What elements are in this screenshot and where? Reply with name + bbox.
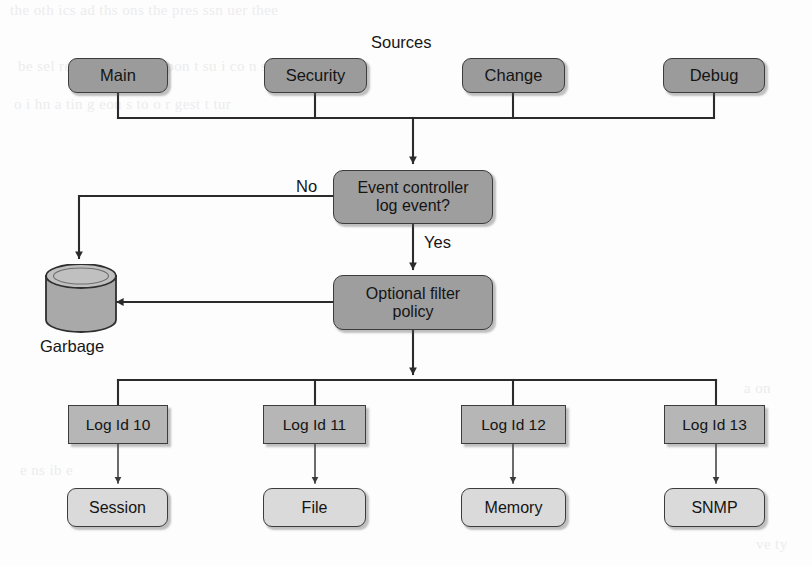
edge-label-no: No — [296, 177, 317, 196]
output-node-session[interactable]: Session — [67, 488, 168, 527]
source-node-security[interactable]: Security — [264, 58, 367, 93]
decision-label-line2: log event? — [376, 197, 450, 215]
cylinder-icon — [42, 264, 120, 338]
logid-label-11: Log Id 11 — [283, 416, 347, 433]
source-label-security: Security — [286, 66, 346, 84]
diagram-title: Sources — [371, 33, 432, 52]
logid-label-12: Log Id 12 — [481, 416, 546, 433]
logid-node-10[interactable]: Log Id 10 — [68, 405, 168, 444]
output-label-memory: Memory — [485, 499, 543, 517]
wire-no-branch — [79, 196, 333, 258]
source-label-main: Main — [100, 66, 136, 84]
datastore-node-garbage[interactable] — [42, 264, 120, 338]
logid-label-10: Log Id 10 — [86, 416, 151, 433]
filter-label-line2: policy — [393, 303, 434, 321]
source-label-change: Change — [485, 66, 543, 84]
source-node-change[interactable]: Change — [462, 58, 565, 93]
flowchart-canvas: the oth ics ad ths ons the pres ssn uer … — [0, 0, 812, 566]
source-label-debug: Debug — [690, 66, 739, 84]
decision-label-line1: Event controller — [357, 179, 468, 197]
logid-node-12[interactable]: Log Id 12 — [461, 405, 566, 444]
logid-node-13[interactable]: Log Id 13 — [664, 405, 765, 444]
logid-node-11[interactable]: Log Id 11 — [263, 405, 366, 444]
source-node-debug[interactable]: Debug — [663, 58, 765, 93]
datastore-label-garbage: Garbage — [40, 337, 104, 356]
output-node-file[interactable]: File — [263, 488, 366, 527]
output-node-memory[interactable]: Memory — [461, 488, 566, 527]
output-node-snmp[interactable]: SNMP — [664, 488, 765, 527]
output-label-session: Session — [89, 499, 146, 517]
source-node-main[interactable]: Main — [68, 58, 168, 93]
filter-label-line1: Optional filter — [366, 285, 460, 303]
decision-node-event-controller[interactable]: Event controller log event? — [333, 170, 493, 224]
edge-label-yes: Yes — [424, 233, 451, 252]
process-node-optional-filter-policy[interactable]: Optional filter policy — [333, 275, 493, 330]
output-label-file: File — [302, 499, 328, 517]
output-label-snmp: SNMP — [691, 499, 737, 517]
logid-label-13: Log Id 13 — [682, 416, 747, 433]
